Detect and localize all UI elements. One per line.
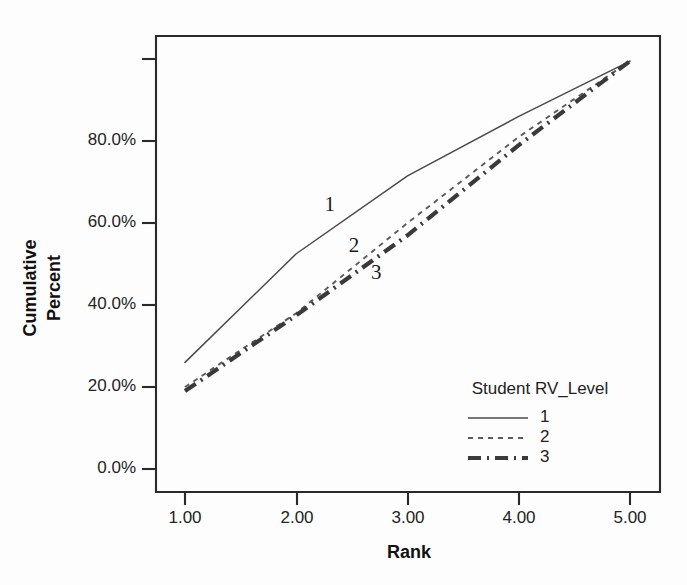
plot-frame <box>156 36 660 492</box>
chart-container: 80.0% 60.0% 40.0% 20.0% 0.0% 1.00 2.00 3… <box>0 0 687 585</box>
y-axis-title-line2: Percent <box>44 255 64 321</box>
x-axis-tick-labels: 1.00 2.00 3.00 4.00 5.00 <box>168 508 646 527</box>
y-axis-title-line1: Cumulative <box>20 239 40 336</box>
plot-border <box>156 36 660 492</box>
x-axis-ticks <box>185 492 630 505</box>
inline-label-series-1: 1 <box>324 192 335 216</box>
y-tick-label-40: 40.0% <box>88 294 136 313</box>
legend-item-1[interactable]: 1 <box>468 407 549 426</box>
x-tick-label-5: 5.00 <box>613 508 646 527</box>
inline-label-series-2: 2 <box>349 233 360 257</box>
y-tick-label-20: 20.0% <box>88 376 136 395</box>
x-tick-label-1: 1.00 <box>168 508 201 527</box>
y-tick-label-80: 80.0% <box>88 130 136 149</box>
legend-label-series-3: 3 <box>540 447 549 466</box>
data-series-group <box>185 61 630 391</box>
legend-item-3[interactable]: 3 <box>468 447 549 466</box>
legend-item-2[interactable]: 2 <box>468 427 549 446</box>
y-tick-label-60: 60.0% <box>88 212 136 231</box>
x-tick-label-2: 2.00 <box>280 508 313 527</box>
inline-label-series-3: 3 <box>371 260 382 284</box>
legend-label-series-1: 1 <box>540 407 549 426</box>
legend-label-series-2: 2 <box>540 427 549 446</box>
y-tick-label-0: 0.0% <box>97 458 136 477</box>
x-tick-label-3: 3.00 <box>391 508 424 527</box>
cumulative-percent-line-chart: 80.0% 60.0% 40.0% 20.0% 0.0% 1.00 2.00 3… <box>0 0 687 585</box>
legend: Student RV_Level 1 2 3 <box>468 379 608 466</box>
y-axis-tick-labels: 80.0% 60.0% 40.0% 20.0% 0.0% <box>88 130 136 477</box>
x-axis-title: Rank <box>387 542 432 562</box>
legend-title: Student RV_Level <box>472 379 609 398</box>
x-tick-label-4: 4.00 <box>502 508 535 527</box>
inline-series-annotations: 1 2 3 <box>324 192 381 284</box>
y-axis-ticks <box>142 59 156 469</box>
axis-titles: Rank Cumulative Percent <box>20 239 432 562</box>
